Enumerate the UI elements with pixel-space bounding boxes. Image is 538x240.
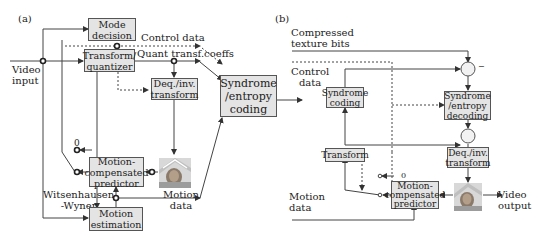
- motion-data-label-a: Motion data: [163, 189, 199, 211]
- deq-a-line2: transform: [151, 89, 199, 100]
- zero-label-a: 0: [74, 138, 80, 149]
- sed-line2: /entropy: [444, 101, 490, 111]
- deq-inv-transform-box-b: Deq./inv.transform: [447, 147, 489, 168]
- tq-line2: quantizer: [83, 61, 137, 72]
- portrait-thumbnail-icon: [454, 183, 482, 211]
- mode-decision-line1: Mode: [92, 19, 132, 30]
- quant-transf-coeffs-label: Quant transf.coeffs: [137, 48, 234, 59]
- sec-line2: /entropy: [220, 90, 277, 103]
- ww-line1: Witsenhausen: [43, 189, 114, 200]
- compressed-texture-bits-label: Compressed texture bits: [291, 27, 354, 49]
- md-b-line1: Motion: [289, 191, 325, 202]
- syndrome-coding-box: Syndromecoding: [326, 87, 364, 108]
- mcp-a-line2: compensated: [85, 167, 149, 178]
- vo-line2: output: [498, 200, 531, 211]
- deq-inv-transform-box-a: Deq./inv.transform: [151, 78, 198, 100]
- sc-line2: coding: [322, 98, 368, 108]
- sec-line3: coding: [220, 103, 277, 116]
- ctb-line1: Compressed: [291, 27, 354, 38]
- motion-compensated-predictor-box-a: Motion-compensatedpredictor: [89, 157, 144, 187]
- deq-b-line2: transform: [445, 158, 490, 168]
- motion-data-label-b: Motion data: [289, 191, 325, 213]
- ctb-line2: texture bits: [291, 38, 354, 49]
- transform-quantizer-box: Transform/quantizer: [84, 49, 135, 72]
- video-input-line1: Video: [12, 64, 41, 75]
- deq-a-line1: Deq./inv.: [151, 78, 199, 89]
- deq-b-line1: Deq./inv.: [445, 148, 490, 158]
- panel-a-label: (a): [18, 13, 32, 24]
- panel-b-label: (b): [275, 13, 289, 24]
- syndrome-entropy-coding-box: Syndrome/entropycoding: [220, 75, 277, 117]
- mcp-a-line3: predictor: [85, 178, 149, 189]
- reference-frame-image-a: [159, 158, 191, 188]
- tr-b-line1: Transform: [321, 150, 369, 161]
- me-line1: Motion: [91, 208, 142, 219]
- mode-decision-box: Modedecision: [88, 18, 136, 41]
- reference-frame-image-b: [454, 183, 482, 211]
- motion-data-a-line2: data: [163, 200, 199, 211]
- portrait-thumbnail-icon: [159, 158, 191, 188]
- zero-label-b: 0: [401, 170, 406, 181]
- me-line2: estimation: [91, 219, 142, 230]
- video-input-label: Video input: [12, 64, 41, 86]
- transform-box-b: Transform: [325, 148, 365, 162]
- mode-decision-line2: decision: [92, 30, 132, 41]
- sec-line1: Syndrome: [220, 77, 277, 90]
- syndrome-entropy-decoding-box: Syndrome/entropydecoding: [444, 91, 491, 120]
- motion-compensated-predictor-box-b: Motion-compensatedpredictor: [391, 181, 439, 209]
- tq-line1: Transform/: [83, 50, 137, 61]
- sc-line1: Syndrome: [322, 88, 368, 98]
- control-data-label-b: Control data: [291, 66, 329, 88]
- cd-b-line1: Control: [291, 66, 329, 77]
- mcp-a-line1: Motion-: [85, 156, 149, 167]
- control-data-label: Control data: [141, 32, 205, 43]
- md-b-line2: data: [289, 202, 325, 213]
- minus-sign: −: [478, 61, 485, 72]
- video-input-line2: input: [12, 75, 41, 86]
- vo-line1: Video: [498, 189, 531, 200]
- motion-estimation-box: Motionestimation: [89, 207, 143, 231]
- motion-data-a-line1: Motion: [163, 189, 199, 200]
- video-output-label: Video output: [498, 189, 531, 211]
- cd-b-line2: data: [291, 77, 329, 88]
- sed-line1: Syndrome: [444, 91, 490, 101]
- mcp-b-line3: predictor: [385, 200, 446, 209]
- sed-line3: decoding: [444, 111, 490, 121]
